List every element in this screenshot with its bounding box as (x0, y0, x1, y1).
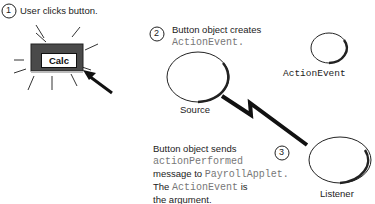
step-3-line-5: the argument. (153, 194, 289, 204)
step-3-line-3-code: PayrollApplet (205, 169, 283, 180)
message-bolt-icon (222, 96, 307, 145)
step-3-line-3-suffix: . (283, 169, 289, 180)
step-3-line-2-code: actionPerformed (153, 156, 243, 167)
source-label: Source (180, 104, 210, 115)
listener-label: Listener (320, 188, 354, 199)
step-2-suffix: . (238, 37, 244, 48)
step-1-number: 1 (6, 5, 11, 15)
step-2-text: Button object creates ActionEvent. (172, 24, 261, 49)
step-2-number: 2 (154, 28, 159, 38)
step-3-line-4-prefix: The (153, 181, 172, 192)
event-handling-diagram: 1 User clicks button. Calc 2 Button obje… (0, 0, 375, 204)
arrow-icon (83, 70, 112, 93)
step-1-text: User clicks button. (20, 5, 98, 17)
step-3-text: Button object sends actionPerformed mess… (153, 143, 289, 204)
step-2-line-1: Button object creates (172, 24, 261, 36)
step-3-line-3-prefix: message to (153, 168, 205, 179)
step-2-code: ActionEvent (172, 37, 238, 48)
action-event-label: ActionEvent (283, 68, 346, 79)
listener-object-icon (309, 137, 371, 183)
step-3-line-4-code: ActionEvent (172, 182, 238, 193)
step-3-line-4-suffix: is (238, 181, 248, 192)
step-3-line-1: Button object sends (153, 143, 289, 155)
calc-button[interactable]: Calc (41, 53, 77, 68)
